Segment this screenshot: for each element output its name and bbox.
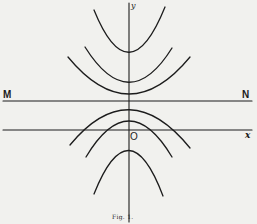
origin-label: O (130, 132, 138, 142)
figure-diagram (0, 0, 257, 224)
x-axis-label: x (245, 131, 250, 140)
point-n-label: N (242, 90, 249, 100)
point-m-label: M (3, 90, 11, 100)
figure: y M N O x Fig. 1. (0, 0, 257, 224)
y-axis-label: y (131, 2, 136, 10)
figure-caption: Fig. 1. (112, 213, 134, 220)
lower-arc-1 (70, 110, 190, 148)
